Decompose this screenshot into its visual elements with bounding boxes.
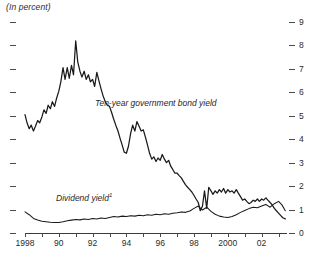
right-axis-tick-5 [289, 116, 295, 117]
x-axis-tick-2000 [228, 233, 229, 237]
y-axis-label-5: 5 [299, 112, 304, 121]
left-axis-tick-5 [10, 116, 16, 117]
x-axis-line [25, 233, 287, 234]
right-axis-tick-7 [289, 69, 295, 70]
chart-unit-title: (In percent) [6, 2, 51, 12]
y-axis-label-6: 6 [299, 88, 304, 97]
x-axis-tick-1993 [110, 233, 111, 237]
x-axis-label-02: 02 [257, 239, 266, 248]
x-axis-tick-1999 [211, 233, 212, 237]
annotation-dividend-yield-text: Dividend yield [56, 193, 109, 203]
x-axis-tick-1996 [160, 233, 161, 237]
x-axis-label-92: 92 [88, 239, 97, 248]
y-axis-label-0: 0 [299, 229, 304, 238]
x-axis-tick-1994 [126, 233, 127, 237]
x-axis-label-1998: 1998 [16, 239, 35, 248]
left-axis-tick-6 [10, 92, 16, 93]
x-axis-tick-1988 [25, 233, 26, 237]
left-axis-tick-7 [10, 69, 16, 70]
y-axis-label-9: 9 [299, 18, 304, 27]
footnote-marker-icon: 1 [109, 192, 112, 198]
right-axis-tick-8 [289, 45, 295, 46]
x-axis-tick-2001 [245, 233, 246, 237]
x-axis-label-98: 98 [189, 239, 198, 248]
left-axis-tick-8 [10, 45, 16, 46]
x-axis-label-90: 90 [54, 239, 63, 248]
x-axis-tick-2003 [279, 233, 280, 237]
right-axis-tick-2 [289, 186, 295, 187]
x-axis-tick-1997 [177, 233, 178, 237]
left-axis-tick-2 [10, 186, 16, 187]
left-axis-tick-1 [10, 210, 16, 211]
annotation-dividend-yield: Dividend yield1 [56, 192, 112, 202]
right-axis-tick-0 [289, 233, 295, 234]
y-axis-label-2: 2 [299, 182, 304, 191]
right-axis-tick-6 [289, 92, 295, 93]
x-axis-tick-1992 [93, 233, 94, 237]
left-axis-tick-4 [10, 139, 16, 140]
left-axis-tick-0 [10, 233, 16, 234]
right-axis-tick-4 [289, 139, 295, 140]
y-axis-label-1: 1 [299, 205, 304, 214]
y-axis-label-4: 4 [299, 135, 304, 144]
annotation-ten-year-government-bond-yield: Ten-year government bond yield [95, 99, 217, 108]
x-axis-label-94: 94 [122, 239, 131, 248]
x-axis-tick-2002 [262, 233, 263, 237]
x-axis-tick-1998 [194, 233, 195, 237]
x-axis-tick-1990 [59, 233, 60, 237]
right-axis-tick-3 [289, 163, 295, 164]
y-axis-label-8: 8 [299, 41, 304, 50]
x-axis-tick-1989 [42, 233, 43, 237]
right-axis-tick-1 [289, 210, 295, 211]
chart-figure: (In percent) 0123456789 1998909294969820… [0, 0, 316, 265]
x-axis-tick-1995 [143, 233, 144, 237]
x-axis-label-2000: 2000 [218, 239, 237, 248]
x-axis-label-96: 96 [155, 239, 164, 248]
series-line-dividend-yield [25, 201, 285, 222]
x-axis-tick-1991 [76, 233, 77, 237]
y-axis-label-7: 7 [299, 65, 304, 74]
y-axis-label-3: 3 [299, 158, 304, 167]
right-axis-tick-9 [289, 22, 295, 23]
left-axis-tick-3 [10, 163, 16, 164]
left-axis-tick-9 [10, 22, 16, 23]
